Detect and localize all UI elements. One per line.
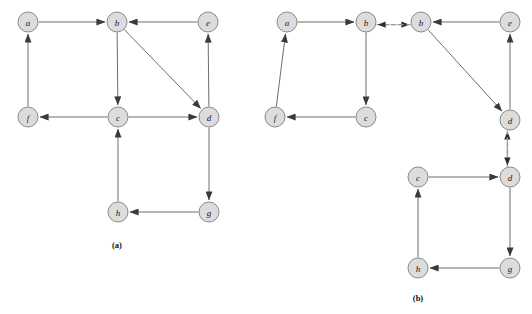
node-label-b-d2: d <box>508 173 513 183</box>
graph-node-b-c1[interactable]: c <box>356 107 376 127</box>
node-label-b-g: g <box>508 264 513 274</box>
graph-node-b-c2[interactable]: c <box>408 167 428 187</box>
node-label-b-c2: c <box>416 173 420 183</box>
graph-node-b-d2[interactable]: d <box>500 167 520 187</box>
edge-b2-to-d1 <box>428 30 502 111</box>
graph-node-b-f[interactable]: f <box>265 107 285 127</box>
node-label-b-b1: b <box>364 18 369 28</box>
graph-node-b-b2[interactable]: b <box>411 12 431 32</box>
graph-node-b-e[interactable]: e <box>500 12 520 32</box>
graph-node-b-g[interactable]: g <box>500 258 520 278</box>
edge-f-to-a <box>276 34 285 107</box>
graph-node-a-f[interactable]: f <box>18 107 38 127</box>
node-label-b-e: e <box>508 18 512 28</box>
graph-node-b-d1[interactable]: d <box>500 110 520 130</box>
panel-caption-panel-b: (b) <box>413 293 424 303</box>
node-label-b-a: a <box>285 18 290 28</box>
node-label-a-c: c <box>116 113 120 123</box>
node-label-a-g: g <box>207 208 212 218</box>
graph-node-a-b[interactable]: b <box>107 12 127 32</box>
graph-node-a-a[interactable]: a <box>18 12 38 32</box>
nodes-layer: abefcdhgabbefcdcdhg <box>18 12 520 278</box>
node-label-a-a: a <box>26 18 31 28</box>
edge-b-to-c <box>117 33 118 106</box>
graph-node-a-c[interactable]: c <box>108 107 128 127</box>
node-label-b-d1: d <box>508 116 513 126</box>
graph-node-a-e[interactable]: e <box>198 12 218 32</box>
edge-d-to-e <box>208 34 209 107</box>
node-label-a-b: b <box>115 18 120 28</box>
panel-caption-panel-a: (a) <box>112 240 122 250</box>
node-label-a-e: e <box>206 18 210 28</box>
edges-layer <box>28 22 510 268</box>
figure-container: abefcdhgabbefcdcdhg (a)(b) <box>0 0 532 314</box>
graph-node-a-d[interactable]: d <box>199 107 219 127</box>
node-label-b-b2: b <box>419 18 424 28</box>
graph-node-a-g[interactable]: g <box>199 202 219 222</box>
captions-layer: (a)(b) <box>112 240 423 303</box>
node-label-a-h: h <box>116 208 121 218</box>
node-label-b-c1: c <box>364 113 368 123</box>
graph-node-b-h[interactable]: h <box>408 258 428 278</box>
node-label-a-d: d <box>207 113 212 123</box>
edge-b-to-d <box>124 30 200 109</box>
graph-node-a-h[interactable]: h <box>108 202 128 222</box>
graph-node-b-b1[interactable]: b <box>356 12 376 32</box>
graph-node-b-a[interactable]: a <box>277 12 297 32</box>
graph-figure-svg: abefcdhgabbefcdcdhg (a)(b) <box>0 0 532 314</box>
node-label-b-h: h <box>416 264 421 274</box>
